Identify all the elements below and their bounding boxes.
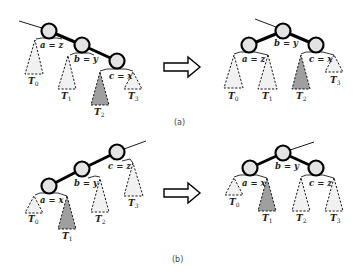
- node-a-label: a = x: [242, 178, 267, 188]
- subtree-t0-label: T0: [28, 76, 39, 87]
- node-c: [309, 161, 324, 176]
- node-b-label: b = y: [74, 178, 99, 188]
- parent-edge: [19, 21, 42, 28]
- node-c: [110, 145, 125, 160]
- subtree-t2-label: T2: [94, 107, 105, 118]
- node-c: [309, 38, 324, 53]
- subtree-t2-label: T2: [296, 213, 307, 224]
- parent-edge: [290, 142, 314, 150]
- subtree-t0: [224, 55, 243, 88]
- subtree-t2-label: T2: [296, 91, 307, 102]
- panel-b-after-tree: b = y a = x c = z T0 T1 T2 T3: [225, 142, 343, 224]
- node-a: [243, 161, 258, 176]
- node-a: [242, 38, 257, 53]
- subtree-t1-label: T1: [62, 231, 73, 242]
- subtree-t0: [225, 178, 243, 195]
- transform-arrow-a: [164, 57, 200, 77]
- subtree-t0-label: T0: [228, 91, 239, 102]
- parent-edge: [124, 141, 146, 149]
- subtree-t2-highlighted: [91, 72, 109, 105]
- node-a-label: a = z: [40, 40, 64, 50]
- node-b: [276, 24, 291, 39]
- node-a-label: a = x: [40, 195, 65, 205]
- node-b: [75, 38, 90, 53]
- node-b: [276, 146, 291, 161]
- parent-edge: [255, 19, 276, 27]
- panel-a-after-tree: b = y a = z c = x T0 T1 T2 T3: [224, 19, 343, 102]
- panel-a-before-tree: a = z b = y c = x T0 T1 T2 T3: [19, 21, 142, 118]
- subtree-t3-label: T3: [128, 198, 139, 209]
- node-c: [110, 54, 125, 69]
- subtree-t3-label: T3: [330, 75, 341, 86]
- node-c-label: c = z: [309, 178, 332, 188]
- subtree-t3-label: T3: [128, 91, 139, 102]
- node-a: [42, 179, 57, 194]
- subtree-t1-label: T1: [61, 91, 72, 102]
- caption-b: (b): [172, 255, 183, 264]
- node-a: [42, 24, 57, 39]
- panel-b-before-tree: c = z b = y a = x T0 T1 T2 T3: [25, 141, 146, 242]
- trinode-restructuring-diagram: a = z b = y c = x T0 T1 T2 T3 (a) b = y …: [0, 0, 362, 273]
- node-c-label: c = x: [309, 54, 333, 64]
- subtree-t2-highlighted: [292, 55, 310, 89]
- node-c-label: c = x: [109, 71, 133, 81]
- subtree-t1-label: T1: [262, 91, 273, 102]
- node-b-label: b = y: [275, 161, 300, 171]
- node-b: [75, 162, 90, 177]
- node-b-label: b = y: [74, 54, 99, 64]
- node-a-label: a = z: [242, 54, 266, 64]
- subtree-t2: [292, 178, 310, 211]
- subtree-t0-label: T0: [229, 197, 240, 208]
- node-b-label: b = y: [274, 38, 299, 48]
- transform-arrow-b: [164, 183, 200, 203]
- subtree-t0-label: T0: [28, 214, 39, 225]
- subtree-t2-label: T2: [95, 214, 106, 225]
- subtree-t3-label: T3: [330, 213, 341, 224]
- caption-a: (a): [174, 118, 185, 127]
- subtree-t1-label: T1: [262, 213, 273, 224]
- node-c-label: c = z: [108, 161, 131, 171]
